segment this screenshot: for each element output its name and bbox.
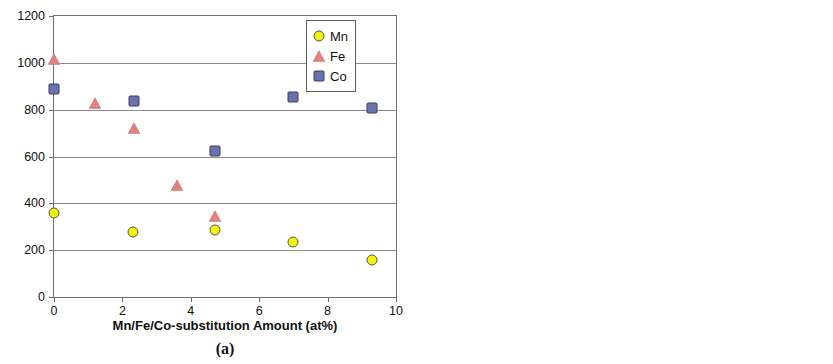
legend-item-fe: Fe (312, 46, 348, 66)
legend-a: Mn Fe Co (306, 20, 356, 92)
data-point-mn (288, 236, 299, 247)
data-point-mn (367, 254, 378, 265)
x-axis-label-a: Mn/Fe/Co-substitution Amount (at%) (53, 318, 397, 333)
x-tick-label: 2 (119, 304, 126, 318)
data-point-mn (209, 224, 220, 235)
panel-caption-a: (a) (53, 340, 397, 358)
y-tick-label: 0 (38, 290, 45, 304)
gridline-y (54, 250, 396, 251)
data-point-fe (171, 180, 183, 191)
legend-label-co: Co (330, 70, 347, 83)
data-point-fe (89, 97, 101, 108)
fe-triangle-icon (312, 49, 326, 63)
data-point-co (209, 146, 220, 157)
y-tick-label: 200 (24, 243, 45, 257)
x-tick-mark (396, 297, 397, 302)
data-point-mn (127, 226, 138, 237)
x-tick-mark (122, 297, 123, 302)
y-tick-label: 1200 (17, 9, 45, 23)
data-point-co (129, 96, 140, 107)
mn-circle-icon (312, 29, 326, 43)
y-tick-mark (49, 250, 54, 251)
y-tick-mark (49, 203, 54, 204)
y-tick-mark (49, 157, 54, 158)
x-tick-label: 0 (51, 304, 58, 318)
gridline-y (54, 203, 396, 204)
co-square-icon (312, 69, 326, 83)
y-tick-mark (49, 16, 54, 17)
data-point-co (288, 92, 299, 103)
x-tick-label: 10 (389, 304, 403, 318)
legend-item-mn: Mn (312, 26, 348, 46)
x-tick-mark (328, 297, 329, 302)
data-point-co (49, 83, 60, 94)
gridline-y (54, 110, 396, 111)
x-tick-label: 8 (324, 304, 331, 318)
gridline-y (54, 157, 396, 158)
chart-panel-a: 0200400600800100012000246810 Ms (memu·g-… (0, 0, 415, 364)
legend-item-co: Co (312, 66, 348, 86)
data-point-mn (49, 208, 60, 219)
legend-label-fe: Fe (330, 50, 345, 63)
x-tick-mark (259, 297, 260, 302)
x-tick-mark (54, 297, 55, 302)
figure-container: 0200400600800100012000246810 Ms (memu·g-… (0, 0, 833, 364)
y-tick-label: 800 (24, 103, 45, 117)
y-tick-mark (49, 110, 54, 111)
x-tick-mark (191, 297, 192, 302)
chart-panel-b: 0.020.040.060.080.100.120.140246810 H1/2… (415, 0, 833, 364)
y-tick-label: 1000 (17, 56, 45, 70)
y-tick-label: 600 (24, 150, 45, 164)
data-point-co (367, 103, 378, 114)
x-tick-label: 4 (187, 304, 194, 318)
data-point-fe (209, 211, 221, 222)
data-point-fe (48, 53, 60, 64)
y-tick-label: 400 (24, 196, 45, 210)
data-point-fe (128, 123, 140, 134)
legend-label-mn: Mn (330, 30, 348, 43)
x-tick-label: 6 (256, 304, 263, 318)
